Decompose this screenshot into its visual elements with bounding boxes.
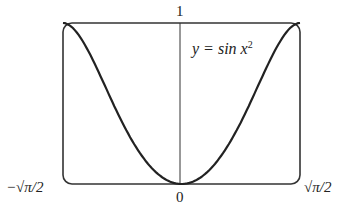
viewing-rectangle	[63, 23, 300, 184]
x-tick-label-right: √π/2	[304, 180, 331, 195]
curve-annotation: y = sin x2	[192, 40, 253, 57]
y-tick-label-1: 1	[176, 4, 184, 19]
sin-x-squared-curve	[63, 23, 300, 184]
plot-area	[0, 0, 342, 212]
x-tick-label-zero: 0	[176, 190, 184, 205]
x-tick-label-left: −√π/2	[6, 180, 44, 195]
